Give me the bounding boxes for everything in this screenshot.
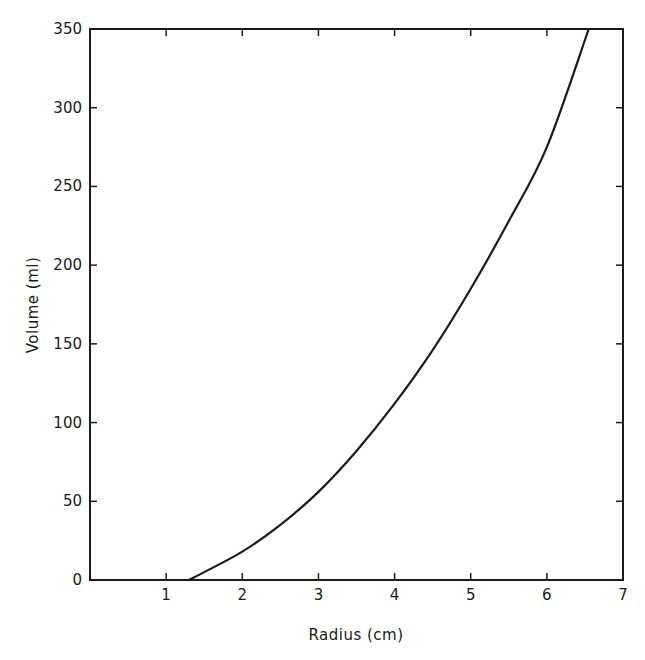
y-tick-label: 300 [53, 99, 82, 117]
y-tick-label: 150 [53, 335, 82, 353]
y-axis-label: Volume (ml) [24, 257, 42, 354]
plot-frame [90, 29, 623, 580]
y-tick-label: 0 [72, 571, 82, 589]
y-tick-labels: 050100150200250300350 [53, 20, 82, 589]
x-tick-label: 5 [466, 586, 476, 604]
x-tick-label: 1 [161, 586, 171, 604]
x-tick-label: 2 [238, 586, 248, 604]
x-tick-labels: 1234567 [161, 586, 627, 604]
x-tick-label: 7 [618, 586, 628, 604]
x-tick-label: 6 [542, 586, 552, 604]
y-tick-label: 250 [53, 177, 82, 195]
chart-canvas: 1234567 050100150200250300350 Radius (cm… [0, 0, 645, 660]
axis-ticks [90, 29, 623, 580]
y-tick-label: 200 [53, 256, 82, 274]
volume-curve [189, 29, 589, 580]
y-tick-label: 100 [53, 414, 82, 432]
y-tick-label: 350 [53, 20, 82, 38]
x-tick-label: 4 [390, 586, 400, 604]
x-tick-label: 3 [314, 586, 324, 604]
y-tick-label: 50 [63, 492, 82, 510]
x-axis-label: Radius (cm) [308, 626, 403, 644]
